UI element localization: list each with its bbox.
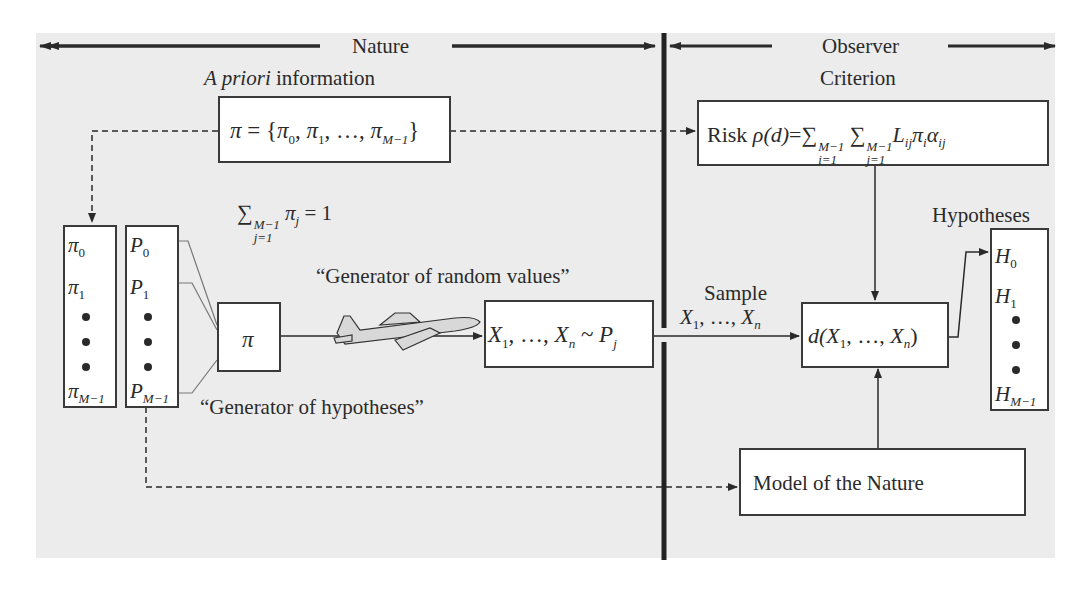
- ellipsis-dot: [1012, 341, 1020, 349]
- sample-title: Sample: [704, 283, 767, 304]
- decision-formula: d(X1, …, Xn): [808, 325, 918, 347]
- nature-label: Nature: [352, 36, 409, 57]
- ellipsis-dot: [144, 313, 152, 321]
- distribution-item: P0: [130, 233, 149, 258]
- ellipsis-dot: [1012, 316, 1020, 324]
- distribution-item: P1: [130, 275, 149, 300]
- prior-set-box: π = {π0, π1, …, πM−1}: [218, 96, 451, 163]
- hypotheses-title: Hypotheses: [932, 205, 1030, 226]
- distribution-item: PM−1: [130, 379, 169, 404]
- airplane-icon: [334, 313, 480, 350]
- generator-of-random-values-label: “Generator of random values”: [316, 266, 570, 287]
- hypotheses-column: H0 H1 HM−1: [990, 228, 1049, 411]
- a-priori-label: A priori information: [204, 68, 375, 89]
- hypothesis-item: H0: [995, 244, 1017, 269]
- model-of-nature-box: Model of the Nature: [739, 448, 1026, 516]
- decision-rule-box: d(X1, …, Xn): [801, 302, 949, 368]
- hypothesis-item: HM−1: [995, 382, 1036, 407]
- prior-sum-constraint: ∑M−1j=1 πj = 1: [237, 202, 332, 244]
- prior-item: π0: [68, 233, 85, 258]
- random-sample-box: X1, …, Xn ~ Pj: [484, 300, 654, 368]
- sample-distribution-formula: X1, …, Xn ~ Pj: [488, 323, 617, 346]
- prior-item: πM−1: [68, 379, 105, 404]
- ellipsis-dot: [82, 363, 90, 371]
- ellipsis-dot: [144, 363, 152, 371]
- ellipsis-dot: [82, 338, 90, 346]
- ellipsis-dot: [82, 313, 90, 321]
- risk-criterion-box: Risk ρ(d)=∑M−1i=1 ∑M−1j=1Lijπiαij: [697, 100, 1049, 166]
- distributions-column: P0 P1 PM−1: [125, 225, 179, 408]
- generator-of-hypotheses-label: “Generator of hypotheses”: [200, 397, 424, 418]
- observer-label: Observer: [822, 36, 899, 57]
- ellipsis-dot: [144, 338, 152, 346]
- prior-item: π1: [68, 275, 85, 300]
- hypothesis-selector-box: π: [217, 302, 281, 372]
- prior-set-formula: π = {π0, π1, …, πM−1}: [230, 119, 419, 142]
- risk-formula: Risk ρ(d)=∑M−1i=1 ∑M−1j=1Lijπiαij: [707, 124, 946, 166]
- criterion-label: Criterion: [820, 68, 896, 89]
- ellipsis-dot: [1012, 366, 1020, 374]
- prior-probabilities-column: π0 π1 πM−1: [63, 225, 117, 408]
- sample-values-label: X1, …, Xn: [680, 307, 761, 328]
- hypothesis-item: H1: [995, 284, 1017, 309]
